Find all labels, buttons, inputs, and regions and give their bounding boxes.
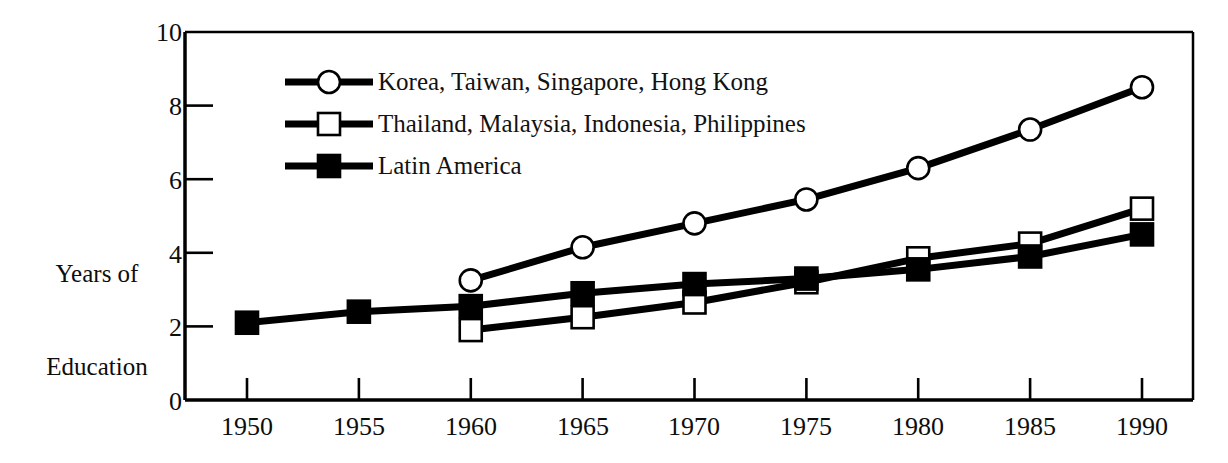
marker-filled-square [1019,245,1041,267]
data-series-layer [236,76,1153,341]
data-markers-2 [236,223,1153,333]
marker-open-circle [1131,76,1153,98]
marker-filled-square [572,282,594,304]
y-axis-ticks [185,106,213,327]
plot-area [0,0,1228,463]
marker-open-circle [684,212,706,234]
marker-open-square [1131,198,1153,220]
data-markers-0 [460,76,1153,291]
x-axis-ticks [247,378,1142,400]
marker-open-circle [907,157,929,179]
marker-open-circle [572,236,594,258]
marker-open-circle [460,269,482,291]
marker-filled-square [318,155,340,177]
marker-filled-square [795,268,817,290]
marker-filled-square [1131,223,1153,245]
legend-item-2 [285,155,373,177]
legend-marker-layer [285,71,373,177]
marker-filled-square [348,301,370,323]
marker-open-circle [318,71,340,93]
chart-figure: Years of Education 10 8 6 4 2 0 1950 195… [0,0,1228,463]
marker-open-circle [795,188,817,210]
marker-filled-square [236,312,258,334]
legend-item-1 [285,113,373,135]
marker-open-square [318,113,340,135]
legend-item-0 [285,71,373,93]
marker-open-square [572,306,594,328]
marker-filled-square [684,273,706,295]
marker-filled-square [907,258,929,280]
marker-open-square [460,319,482,341]
marker-open-circle [1019,119,1041,141]
marker-filled-square [460,295,482,317]
